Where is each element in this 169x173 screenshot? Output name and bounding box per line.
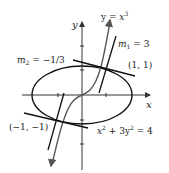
ellipse-label: x2 + 3y2 = 4 <box>97 124 153 136</box>
point-label-1-1: (1, 1) <box>128 60 152 70</box>
cubic-label: y = x3 <box>100 10 128 22</box>
implicit-differentiation-diagram: x y y = x3 m1 = 3 m2 = −1/3 (1, 1) (−1, … <box>0 0 169 173</box>
y-axis-label: y <box>71 19 78 30</box>
x-axis-label: x <box>146 99 152 110</box>
slope-label-m1: m1 = 3 <box>118 39 150 50</box>
cubic-curve <box>52 22 110 164</box>
slope-label-m2: m2 = −1/3 <box>17 55 65 66</box>
point-label-neg1-neg1: (−1, −1) <box>9 122 48 132</box>
